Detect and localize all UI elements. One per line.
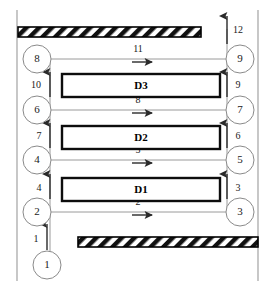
vertical-arrow-label-12: 12: [233, 24, 243, 35]
vertical-arrow-label-6: 6: [236, 130, 241, 141]
node-label-3: 3: [237, 205, 243, 217]
node-label-4: 4: [34, 153, 40, 165]
flow-label-11: 11: [133, 43, 143, 54]
vertical-arrow-label-7: 7: [37, 130, 42, 141]
node-label-9: 9: [237, 52, 243, 64]
vertical-arrow-label-10: 10: [31, 79, 41, 90]
node-label-8: 8: [34, 52, 40, 64]
diagram-canvas: 25811 1471036912 D3D2D1 124683579: [0, 0, 277, 291]
vertical-arrow-label-4: 4: [37, 182, 42, 193]
node-label-2: 2: [34, 205, 40, 217]
node-label-6: 6: [34, 103, 40, 115]
vertical-arrow-label-1: 1: [34, 233, 39, 244]
vertical-arrow-label-9: 9: [236, 79, 241, 90]
vertical-arrow-label-3: 3: [236, 182, 241, 193]
device-label-D1: D1: [134, 183, 147, 195]
bottom-barrier: [78, 237, 258, 247]
device-boxes: D3D2D1: [62, 74, 220, 201]
process-flow-diagram: 25811 1471036912 D3D2D1 124683579: [0, 0, 277, 291]
node-label-5: 5: [237, 153, 243, 165]
device-label-D3: D3: [134, 79, 148, 91]
device-label-D2: D2: [134, 131, 148, 143]
node-label-7: 7: [237, 103, 243, 115]
top-barrier: [18, 27, 201, 37]
node-label-1: 1: [44, 258, 50, 270]
